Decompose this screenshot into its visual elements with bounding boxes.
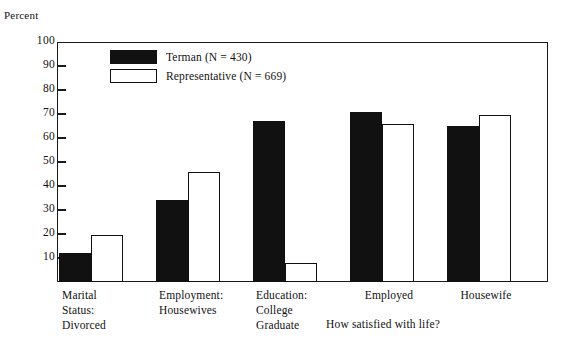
x-axis-label-line: Housewives: [159, 303, 223, 318]
bar-representative-3: [382, 124, 414, 282]
x-axis-label-line: College: [256, 303, 307, 318]
legend-item-terman: Terman (N = 430): [110, 47, 325, 66]
y-tick-label: 40: [15, 178, 55, 190]
bar-terman-4: [447, 126, 479, 282]
bar-terman-2: [253, 121, 285, 282]
y-tick-label: 20: [15, 226, 55, 238]
bar-terman-3: [350, 112, 382, 282]
y-tick-label: 80: [15, 82, 55, 94]
x-axis-caption: How satisfied with life?: [326, 318, 440, 330]
x-axis-label-0: MaritalStatus:Divorced: [62, 288, 106, 333]
x-axis-label-1: Employment:Housewives: [159, 288, 223, 318]
y-axis-label: Percent: [4, 9, 38, 21]
bar-representative-0: [91, 235, 123, 282]
legend: Terman (N = 430) Representative (N = 669…: [110, 47, 325, 85]
x-axis-labels: MaritalStatus:DivorcedEmployment:Housewi…: [0, 288, 573, 347]
x-axis-label-line: Employment:: [159, 288, 223, 303]
bar-terman-1: [156, 200, 188, 282]
x-axis-label-line: Divorced: [62, 318, 106, 333]
x-axis-label-line: Housewife: [460, 288, 511, 303]
y-tick-label: 100: [15, 34, 55, 46]
y-tick-label: 60: [15, 130, 55, 142]
bar-terman-0: [59, 253, 91, 282]
y-tick-label: 30: [15, 202, 55, 214]
y-tick-label: 90: [15, 58, 55, 70]
y-tick-label: 50: [15, 154, 55, 166]
bar-representative-1: [188, 172, 220, 282]
x-axis-label-3: Employed: [365, 288, 413, 303]
x-axis-label-line: Marital: [62, 288, 106, 303]
x-axis-label-4: Housewife: [460, 288, 511, 303]
x-axis-label-line: Employed: [365, 288, 413, 303]
y-tick-label: 10: [15, 250, 55, 262]
y-tick-label: 70: [15, 106, 55, 118]
legend-label-representative: Representative (N = 669): [166, 70, 286, 82]
legend-item-representative: Representative (N = 669): [110, 66, 325, 85]
x-axis-label-2: Education:CollegeGraduate: [256, 288, 307, 333]
x-axis-label-line: Graduate: [256, 318, 307, 333]
x-axis-label-line: Status:: [62, 303, 106, 318]
x-axis-label-line: Education:: [256, 288, 307, 303]
bar-chart: Percent 100908070605040302010 Terman (N …: [0, 0, 573, 347]
bar-representative-4: [479, 115, 511, 282]
legend-swatch-representative: [110, 69, 157, 83]
legend-label-terman: Terman (N = 430): [166, 51, 252, 63]
legend-swatch-terman: [110, 50, 157, 64]
bar-representative-2: [285, 263, 317, 282]
